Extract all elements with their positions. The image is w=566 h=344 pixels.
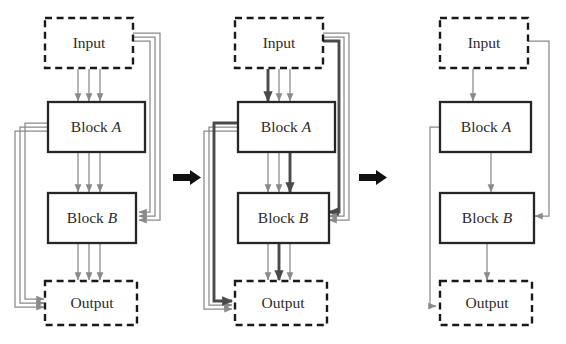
panel-2-input-label: Input [263, 34, 296, 51]
panel-2-block-b-label: Block B [258, 209, 309, 226]
panel-3-output-label: Output [465, 294, 509, 311]
panel-1-block-a-label: Block A [71, 118, 122, 135]
panel-1-output-label: Output [70, 294, 114, 311]
panel-3-block-b-label: Block B [462, 209, 513, 226]
panel-3-node-block-a: Block A [440, 102, 531, 152]
panel-1-input-label: Input [73, 34, 106, 51]
figure-background [0, 0, 566, 344]
panel-3-input-label: Input [468, 34, 501, 51]
panel-1-node-block-a: Block A [48, 102, 145, 152]
panel-3-node-block-b: Block B [440, 193, 534, 243]
panel-3-block-a-label: Block A [461, 118, 512, 135]
panel-2-output-label: Output [261, 294, 305, 311]
panel-2-node-block-b: Block B [238, 193, 329, 243]
panel-2-block-a-label: Block A [261, 118, 312, 135]
panel-2-node-block-a: Block A [238, 102, 335, 152]
panel-1-node-block-b: Block B [48, 193, 136, 243]
pruning-progression-figure: Input Block A Block B Output [0, 0, 566, 344]
panel-1-block-b-label: Block B [67, 209, 118, 226]
